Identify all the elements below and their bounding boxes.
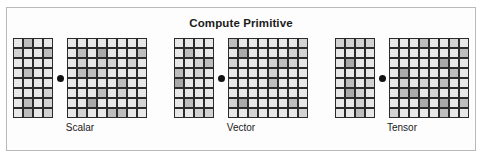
grid-cell [429,78,439,88]
grid-cell [298,68,308,78]
grid-cell [459,78,469,88]
grid-cell [77,98,87,108]
primitive-group-body [335,38,469,118]
grid-cell [409,88,419,98]
tensor-right-grid [389,38,469,118]
grid-cell [268,98,278,108]
grid-cell [248,88,258,98]
grid-cell [87,48,97,58]
grid-cell [33,108,43,118]
grid-cell [298,58,308,68]
grid-cell [184,68,194,78]
grid-cell [459,38,469,48]
grid-cell [228,78,238,88]
grid-cell [23,108,33,118]
grid-cell [97,108,107,118]
grid-cell [184,88,194,98]
grid-cell [23,68,33,78]
grid-cell [268,58,278,68]
grid-cell [184,78,194,88]
grid-cell [67,58,77,68]
grid-cell [409,98,419,108]
grid-cell [77,58,87,68]
grid-cell [248,68,258,78]
grid-cell [77,68,87,78]
grid-cell [298,78,308,88]
grid-cell [389,48,399,58]
grid-cell [67,88,77,98]
grid-cell [13,58,23,68]
grid-cell [288,58,298,68]
grid-cell [174,98,184,108]
dot-icon [218,75,225,82]
grid-cell [429,58,439,68]
grid-cell [87,78,97,88]
grid-cell [399,98,409,108]
grid-cell [174,108,184,118]
grid-cell [268,38,278,48]
primitive-group-label-tensor: Tensor [387,121,417,134]
grid-cell [449,108,459,118]
vector-dot-separator [214,75,228,82]
grid-cell [67,68,77,78]
grid-cell [23,98,33,108]
grid-cell [238,78,248,88]
grid-cell [67,78,77,88]
grid-cell [67,108,77,118]
grid-cell [23,58,33,68]
grid-cell [107,88,117,98]
grid-cell [107,68,117,78]
grid-cell [23,88,33,98]
primitive-group-label-scalar: Scalar [66,121,94,134]
grid-cell [355,58,365,68]
grid-cell [174,48,184,58]
grid-cell [335,78,345,88]
grid-cell [97,98,107,108]
grid-cell [345,98,355,108]
grid-cell [77,38,87,48]
grid-cell [439,58,449,68]
figure-frame: Compute Primitive Scalar [6,7,476,151]
grid-cell [43,48,53,58]
grid-cell [97,68,107,78]
grid-cell [459,98,469,108]
grid-cell [33,78,43,88]
grid-cell [335,88,345,98]
grid-cell [127,38,137,48]
grid-cell [107,108,117,118]
grid-cell [43,38,53,48]
grid-cell [298,38,308,48]
tensor-left-grid [335,38,375,118]
grid-cell [288,98,298,108]
grid-cell [268,88,278,98]
grid-cell [429,108,439,118]
grid-cell [204,48,214,58]
grid-cell [228,108,238,118]
grid-cell [33,48,43,58]
grid-cell [204,108,214,118]
grid-cell [204,88,214,98]
grid-cell [238,88,248,98]
grid-cell [87,108,97,118]
grid-cell [117,108,127,118]
primitive-group-body [174,38,308,118]
grid-cell [97,78,107,88]
grid-cell [228,98,238,108]
grid-cell [399,78,409,88]
grid-cell [204,68,214,78]
grid-cell [238,38,248,48]
grid-cell [228,48,238,58]
grid-cell [97,48,107,58]
grid-cell [204,58,214,68]
grid-cell [117,48,127,58]
grid-cell [238,98,248,108]
grid-cell [389,58,399,68]
grid-cell [439,68,449,78]
grid-cell [258,88,268,98]
grid-cell [389,38,399,48]
grid-cell [409,58,419,68]
grid-cell [449,68,459,78]
grid-cell [23,38,33,48]
grid-cell [355,48,365,58]
grid-cell [13,78,23,88]
